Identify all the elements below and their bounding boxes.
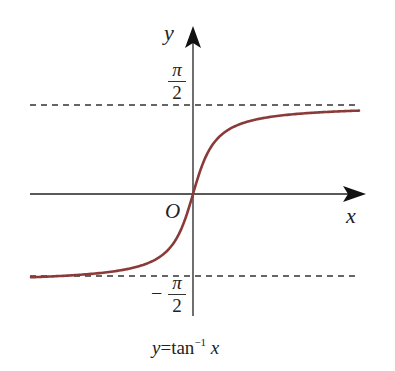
caption-inverse: −1 [194,336,206,348]
x-axis-label: x [346,203,356,229]
caption-x: x [211,337,219,358]
pi-numerator: π [168,273,186,293]
y-axis-label: y [164,20,174,46]
chart-caption: y=tan−1 x [152,336,219,359]
caption-equals-tan: =tan [160,337,194,358]
lower-asymptote-label: π 2 [168,273,186,316]
origin-label: O [165,199,180,224]
negative-sign: − [151,282,162,305]
plot-area [0,0,395,371]
denominator: 2 [168,296,186,316]
pi-numerator: π [168,60,186,80]
upper-asymptote-label: π 2 [168,60,186,103]
denominator: 2 [168,83,186,103]
